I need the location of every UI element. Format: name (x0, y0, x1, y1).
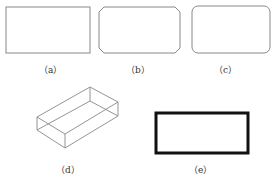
panel-b-label: （b） (126, 65, 150, 75)
panel-d-3d-box (37, 87, 118, 148)
panel-d-label: （d） (56, 165, 80, 175)
panel-c-label: （c） (214, 65, 237, 75)
panel-c-rounded-rectangle (192, 6, 270, 53)
panel-b-chamfered-rectangle (99, 7, 180, 53)
panel-a-label: （a） (39, 65, 62, 75)
panel-a-rectangle (6, 7, 90, 53)
figure-canvas: （a） （b） （c） （d） （e） (0, 0, 276, 186)
panel-e-thick-rectangle (156, 113, 248, 153)
panel-e-label: （e） (189, 165, 212, 175)
